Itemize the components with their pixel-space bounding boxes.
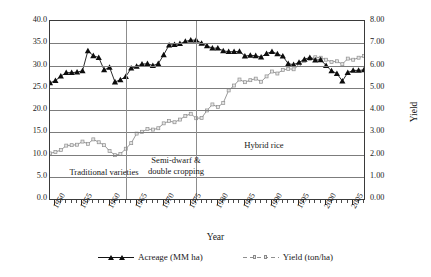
- gridline: [50, 132, 364, 133]
- yield-data-point: [330, 60, 333, 63]
- square-marker-icon: [264, 255, 268, 259]
- x-axis-minor-tick: [228, 200, 229, 203]
- acreage-data-point: [58, 73, 64, 79]
- acreage-data-point: [280, 53, 286, 59]
- y-axis-left-tick-label: 25.0: [0, 83, 47, 91]
- legend-line-acreage: [98, 257, 134, 258]
- y-axis-right-tick-label: 1.00: [370, 172, 410, 180]
- y-axis-left-tick-label: 20.0: [0, 105, 47, 113]
- x-axis-minor-tick: [336, 200, 337, 203]
- yield-data-point: [238, 78, 241, 81]
- x-axis-minor-tick: [201, 200, 202, 203]
- chart-figure: Acreage Yield Year 0.05.010.015.020.025.…: [0, 0, 431, 277]
- x-axis-minor-tick: [125, 200, 126, 203]
- yield-data-point: [265, 75, 268, 78]
- acreage-data-point: [220, 48, 226, 54]
- yield-data-point: [211, 103, 214, 106]
- x-axis-minor-tick: [347, 200, 348, 203]
- yield-data-point: [54, 151, 57, 154]
- x-axis-minor-tick: [76, 200, 77, 203]
- acreage-data-point: [274, 51, 280, 57]
- yield-data-point: [173, 121, 176, 124]
- acreage-data-point: [296, 59, 302, 65]
- x-axis-minor-tick: [320, 200, 321, 203]
- triangle-marker-icon: [119, 255, 125, 260]
- yield-data-point: [346, 57, 349, 60]
- y-axis-right-tick-label: 4.00: [370, 105, 410, 113]
- yield-data-point: [243, 81, 246, 84]
- x-axis-minor-tick: [103, 200, 104, 203]
- acreage-data-point: [345, 70, 351, 76]
- legend-item-acreage: Acreage (MM ha): [98, 252, 203, 262]
- square-marker-icon: [253, 255, 257, 259]
- y-axis-right-title: Yield: [409, 102, 419, 123]
- acreage-data-point: [85, 48, 91, 54]
- yield-data-point: [227, 89, 230, 92]
- acreage-data-point: [117, 77, 123, 83]
- yield-data-point: [130, 142, 133, 145]
- x-axis-minor-tick: [146, 200, 147, 203]
- yield-data-point: [363, 54, 365, 57]
- yield-data-point: [276, 72, 279, 75]
- x-axis-minor-tick: [174, 200, 175, 203]
- yield-data-point: [92, 138, 95, 141]
- x-axis-minor-tick: [287, 200, 288, 203]
- yield-data-point: [146, 128, 149, 131]
- acreage-data-point: [307, 54, 313, 60]
- x-axis-minor-tick: [293, 200, 294, 203]
- y-axis-right-tick-label: 5.00: [370, 83, 410, 91]
- yield-data-point: [357, 56, 360, 59]
- x-axis-minor-tick: [341, 200, 342, 203]
- yield-data-point: [222, 101, 225, 104]
- yield-data-point: [292, 68, 295, 71]
- yield-data-point: [59, 149, 62, 152]
- x-axis-minor-tick: [260, 200, 261, 203]
- acreage-data-point: [236, 48, 242, 54]
- annotation-semi-dwarf-line1: Semi-dwarf &: [134, 155, 218, 165]
- x-axis-minor-tick: [179, 200, 180, 203]
- yield-data-point: [260, 80, 263, 83]
- plot-area: Traditional varieties Semi-dwarf & doubl…: [49, 20, 365, 200]
- yield-data-point: [200, 117, 203, 120]
- y-axis-right-tick-label: 3.00: [370, 127, 410, 135]
- annotation-semi-dwarf-line2: double cropping: [130, 166, 222, 176]
- x-axis-minor-tick: [119, 200, 120, 203]
- legend-line-yield: [243, 257, 279, 258]
- x-axis-minor-tick: [130, 200, 131, 203]
- yield-data-point: [189, 112, 192, 115]
- y-axis-left-tick-label: 15.0: [0, 127, 47, 135]
- legend-label-acreage: Acreage (MM ha): [138, 252, 203, 262]
- y-axis-right-tick-label: 6.00: [370, 61, 410, 69]
- yield-data-point: [76, 143, 79, 146]
- x-axis-minor-tick: [363, 200, 364, 203]
- x-axis-minor-tick: [282, 200, 283, 203]
- triangle-marker-icon: [108, 255, 114, 260]
- x-axis-minor-tick: [157, 200, 158, 203]
- gridline: [50, 110, 364, 111]
- x-axis-minor-tick: [152, 200, 153, 203]
- yield-data-point: [86, 142, 89, 145]
- legend-label-yield: Yield (ton/ha): [283, 252, 333, 262]
- acreage-data-point: [161, 52, 167, 58]
- x-axis-minor-tick: [309, 200, 310, 203]
- yield-data-point: [151, 128, 154, 131]
- chart-legend: Acreage (MM ha) Yield (ton/ha): [0, 252, 431, 262]
- y-axis-left-tick-label: 35.0: [0, 38, 47, 46]
- x-axis-minor-tick: [184, 200, 185, 203]
- yield-data-point: [162, 122, 165, 125]
- yield-data-point: [335, 60, 338, 63]
- yield-data-point: [157, 127, 160, 130]
- gridline: [50, 66, 364, 67]
- yield-data-point: [97, 141, 100, 144]
- y-axis-right-tick-label: 0.00: [370, 194, 410, 202]
- gridline: [50, 43, 364, 44]
- y-axis-left-tick-label: 5.0: [0, 172, 47, 180]
- legend-key-yield: [243, 253, 279, 262]
- yield-data-point: [184, 115, 187, 118]
- yield-data-point: [70, 144, 73, 147]
- yield-data-point: [65, 144, 68, 147]
- y-axis-left-tick-label: 30.0: [0, 61, 47, 69]
- y-axis-right-tick-label: 2.00: [370, 150, 410, 158]
- x-axis-minor-tick: [238, 200, 239, 203]
- yield-data-point: [168, 120, 171, 123]
